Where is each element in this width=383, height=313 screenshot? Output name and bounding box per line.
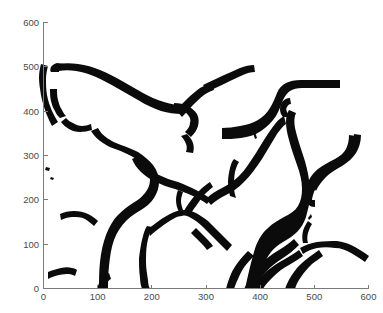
x-tick-label: 500: [306, 291, 322, 302]
y-tick-label: 500: [23, 61, 39, 72]
figure-canvas: 600 500 400 300 200 100 0 0 100 200 300 …: [0, 0, 383, 313]
x-tick-label: 300: [198, 291, 214, 302]
x-tick-label: 400: [252, 291, 268, 302]
plot-background: [0, 0, 383, 313]
y-tick-label: 0: [34, 283, 39, 294]
y-tick-label: 400: [23, 106, 39, 117]
x-tick-label: 0: [41, 291, 46, 302]
y-tick-label: 300: [23, 150, 39, 161]
x-tick-label: 100: [90, 291, 106, 302]
x-tick-label: 200: [144, 291, 160, 302]
x-tick-label: 600: [361, 291, 377, 302]
y-tick-label: 200: [23, 194, 39, 205]
y-tick-label: 100: [23, 239, 39, 250]
y-tick-label: 600: [23, 17, 39, 28]
plot-svg: 600 500 400 300 200 100 0 0 100 200 300 …: [0, 0, 383, 313]
